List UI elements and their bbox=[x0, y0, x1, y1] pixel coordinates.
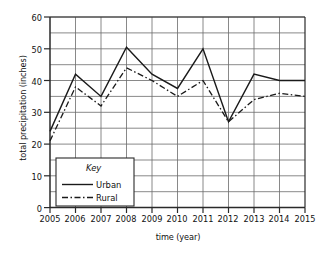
legend-entry-urban-label: Urban bbox=[96, 180, 121, 190]
x-axis-ticks bbox=[50, 208, 305, 213]
precipitation-line-chart: total precipitation (inches) time (year)… bbox=[0, 0, 325, 255]
plot-area bbox=[0, 0, 325, 255]
legend-title: Key bbox=[86, 163, 101, 173]
y-axis-ticks bbox=[44, 17, 50, 208]
legend-entry-rural-label: Rural bbox=[96, 193, 118, 203]
